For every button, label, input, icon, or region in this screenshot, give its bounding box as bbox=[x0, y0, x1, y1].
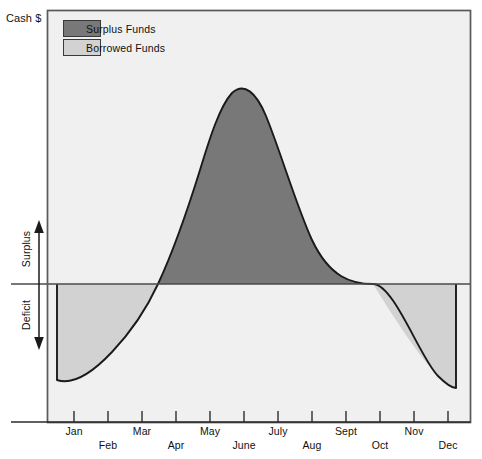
deficit-arrow-icon bbox=[34, 284, 44, 350]
y-axis-title: Cash $ bbox=[6, 12, 41, 24]
xtick-label-may: May bbox=[200, 425, 220, 437]
xtick-label-dec: Dec bbox=[439, 439, 458, 451]
xtick-label-sept: Sept bbox=[335, 425, 357, 437]
legend-label-surplus-funds: Surplus Funds bbox=[86, 23, 156, 35]
xtick-label-aug: Aug bbox=[303, 439, 322, 451]
xtick-label-apr: Apr bbox=[168, 439, 185, 451]
deficit-direction-label: Deficit bbox=[20, 290, 32, 340]
xtick-label-jan: Jan bbox=[65, 425, 82, 437]
cash-flow-chart bbox=[0, 0, 482, 459]
surplus-direction-label: Surplus bbox=[20, 222, 32, 276]
surplus-arrow-icon bbox=[34, 220, 44, 284]
xtick-label-mar: Mar bbox=[133, 425, 151, 437]
legend-label-borrowed-funds: Borrowed Funds bbox=[86, 42, 165, 54]
xtick-label-nov: Nov bbox=[405, 425, 424, 437]
xtick-label-feb: Feb bbox=[99, 439, 117, 451]
xtick-label-june: June bbox=[232, 439, 255, 451]
xtick-label-july: July bbox=[268, 425, 287, 437]
xtick-label-oct: Oct bbox=[372, 439, 389, 451]
